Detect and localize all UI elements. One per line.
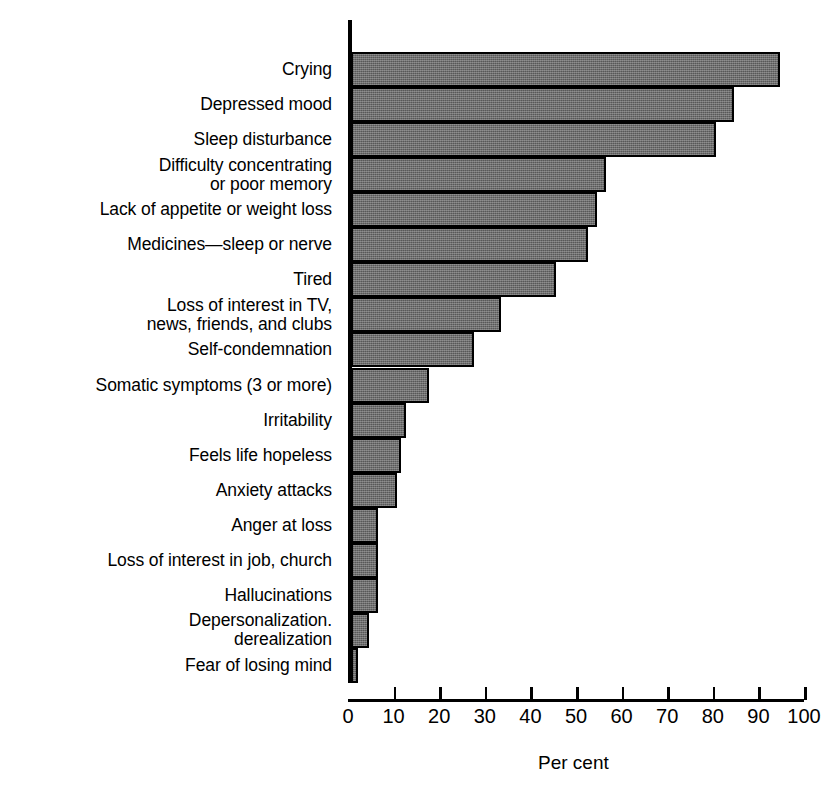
bar [351,368,429,403]
bar [351,52,780,87]
category-label: Loss of interest in TV, news, friends, a… [0,297,340,332]
bar [351,157,606,192]
bar [351,543,378,578]
x-axis: 0102030405060708090100 [348,683,818,693]
bar [351,332,474,367]
category-label: Depressed mood [0,87,340,122]
bar [351,438,401,473]
x-axis-tick-label: 10 [382,705,404,727]
x-axis-tick [394,687,397,700]
bar [351,578,378,613]
category-label: Difficulty concentrating or poor memory [0,157,340,192]
category-label: Hallucinations [0,578,340,613]
category-label-text: Loss of interest in TV, news, friends, a… [147,296,332,334]
x-axis-tick-label: 50 [565,705,587,727]
x-axis-tick [713,687,716,700]
category-label-text: Difficulty concentrating or poor memory [159,156,332,194]
category-label-text: Self-condemnation [188,340,332,359]
category-label: Lack of appetite or weight loss [0,192,340,227]
bar [351,122,716,157]
x-axis-tick [530,687,533,700]
bar [351,473,397,508]
x-axis-tick [804,687,807,700]
x-axis-title-text: Per cent [538,752,609,773]
plot-area [348,20,818,685]
x-axis-tick [622,687,625,700]
x-axis-tick-label: 80 [702,705,724,727]
x-axis-tick-label: 0 [342,705,353,727]
bar-series [351,52,818,683]
category-label-text: Crying [282,60,332,79]
x-axis-tick [439,687,442,700]
category-label-text: Somatic symptoms (3 or more) [96,376,332,395]
category-label-text: Tired [293,270,332,289]
x-axis-tick-label: 30 [474,705,496,727]
x-axis-tick-label: 90 [747,705,769,727]
category-label: Feels life hopeless [0,438,340,473]
bar-chart-figure: CryingDepressed moodSleep disturbanceDif… [0,0,840,791]
bar [351,227,588,262]
category-label: Somatic symptoms (3 or more) [0,368,340,403]
category-label-text: Anger at loss [231,516,332,535]
category-label-text: Fear of losing mind [185,656,332,675]
category-label: Fear of losing mind [0,648,340,683]
bar [351,262,556,297]
category-label-text: Lack of appetite or weight loss [100,200,332,219]
category-label-text: Loss of interest in job, church [107,551,332,570]
category-label: Self-condemnation [0,332,340,367]
x-axis-tick [667,687,670,700]
category-label-text: Depressed mood [200,95,332,114]
category-label-column: CryingDepressed moodSleep disturbanceDif… [0,52,340,683]
x-axis-tick-label: 40 [519,705,541,727]
x-axis-tick [576,687,579,700]
bar [351,508,378,543]
category-label-text: Medicines—sleep or nerve [127,235,332,254]
category-label-text: Irritability [263,411,332,430]
bar [351,297,501,332]
x-axis-title: Per cent [348,752,818,774]
category-label-text: Depersonalization. derealization [189,611,332,649]
x-axis-tick-label: 60 [610,705,632,727]
x-axis-tick-label: 100 [787,705,820,727]
x-axis-tick-label: 20 [428,705,450,727]
bar [351,648,358,683]
category-label-text: Sleep disturbance [194,130,332,149]
x-axis-tick-label: 70 [656,705,678,727]
category-label: Irritability [0,403,340,438]
category-label: Sleep disturbance [0,122,340,157]
category-label-text: Hallucinations [224,586,332,605]
category-label: Crying [0,52,340,87]
category-label: Medicines—sleep or nerve [0,227,340,262]
category-label: Tired [0,262,340,297]
bar [351,613,369,648]
category-label-text: Anxiety attacks [216,481,332,500]
bar [351,192,597,227]
bar [351,403,406,438]
bar [351,87,734,122]
category-label: Anxiety attacks [0,473,340,508]
category-label-text: Feels life hopeless [189,446,332,465]
x-axis-tick [485,687,488,700]
category-label: Loss of interest in job, church [0,543,340,578]
category-label: Depersonalization. derealization [0,613,340,648]
x-axis-tick [758,687,761,700]
category-label: Anger at loss [0,508,340,543]
